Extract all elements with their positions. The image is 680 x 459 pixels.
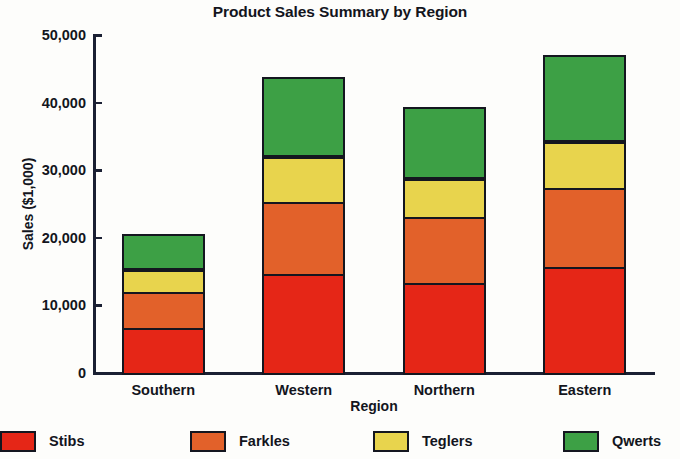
bar-segment-teglers[interactable]	[122, 270, 205, 294]
legend-swatch-farkles	[190, 431, 226, 452]
legend-item-stibs[interactable]: Stibs	[0, 428, 84, 454]
bar-segment-qwerts[interactable]	[543, 55, 626, 142]
category-label-eastern: Eastern	[515, 382, 655, 398]
bar-segment-qwerts[interactable]	[262, 77, 345, 156]
bar-segment-farkles[interactable]	[403, 217, 486, 285]
bar-group[interactable]	[403, 35, 486, 373]
chart-legend: StibsFarklesTeglersQwerts	[0, 428, 680, 456]
bar-group[interactable]	[543, 35, 626, 373]
y-axis-tick-label: 0	[0, 365, 86, 381]
legend-swatch-stibs	[0, 431, 36, 452]
legend-swatch-teglers	[373, 431, 409, 452]
legend-item-teglers[interactable]: Teglers	[373, 428, 473, 454]
bar-segment-stibs[interactable]	[543, 267, 626, 375]
legend-item-qwerts[interactable]: Qwerts	[563, 428, 661, 454]
bar-segment-qwerts[interactable]	[403, 107, 486, 179]
bar-segment-stibs[interactable]	[403, 283, 486, 376]
y-axis-tick-label: 30,000	[0, 162, 86, 178]
bar-segment-farkles[interactable]	[543, 188, 626, 269]
category-label-western: Western	[234, 382, 374, 398]
x-axis-title: Region	[93, 398, 655, 414]
category-label-northern: Northern	[374, 382, 514, 398]
bar-stack	[122, 234, 205, 373]
legend-label: Qwerts	[612, 433, 661, 449]
bar-stack	[262, 77, 345, 373]
bar-segment-teglers[interactable]	[262, 157, 345, 204]
bar-segment-qwerts[interactable]	[122, 234, 205, 270]
stacked-bar-chart: Product Sales Summary by Region 010,0002…	[0, 0, 680, 459]
y-axis-tick-label: 10,000	[0, 297, 86, 313]
bar-segment-teglers[interactable]	[543, 142, 626, 190]
bar-group[interactable]	[122, 35, 205, 373]
y-axis-tick-label: 50,000	[0, 27, 86, 43]
category-label-southern: Southern	[93, 382, 233, 398]
bar-segment-stibs[interactable]	[122, 328, 205, 375]
bar-segment-farkles[interactable]	[262, 202, 345, 276]
y-axis-title: Sales ($1,000)	[20, 124, 36, 284]
legend-item-farkles[interactable]: Farkles	[190, 428, 290, 454]
bar-group[interactable]	[262, 35, 345, 373]
plot-area	[93, 35, 655, 373]
legend-label: Farkles	[239, 433, 290, 449]
chart-title: Product Sales Summary by Region	[0, 3, 680, 21]
bar-segment-teglers[interactable]	[403, 179, 486, 220]
bar-stack	[403, 107, 486, 373]
legend-label: Teglers	[422, 433, 473, 449]
bar-stack	[543, 55, 626, 373]
y-axis-tick-label: 40,000	[0, 95, 86, 111]
legend-swatch-qwerts	[563, 431, 599, 452]
legend-label: Stibs	[49, 433, 84, 449]
bar-segment-farkles[interactable]	[122, 292, 205, 330]
y-axis-tick-label: 20,000	[0, 230, 86, 246]
bar-segment-stibs[interactable]	[262, 274, 345, 375]
